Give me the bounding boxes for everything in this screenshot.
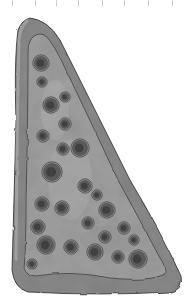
pepperoni bbox=[92, 190, 102, 200]
pepperoni bbox=[31, 220, 45, 234]
pepperoni bbox=[118, 222, 130, 234]
pizza-slice-illustration bbox=[0, 0, 193, 303]
pepperoni bbox=[43, 97, 59, 113]
pepperoni bbox=[71, 139, 89, 157]
pepperoni bbox=[129, 250, 147, 268]
pepperoni bbox=[27, 259, 37, 269]
pepperoni bbox=[37, 130, 49, 142]
pepperoni bbox=[33, 55, 49, 71]
pepperoni bbox=[129, 235, 139, 245]
pepperoni bbox=[55, 201, 69, 215]
pepperoni bbox=[57, 143, 69, 155]
pepperoni bbox=[64, 240, 78, 254]
pepperoni bbox=[37, 236, 55, 254]
pepperoni bbox=[59, 118, 71, 130]
pepperoni bbox=[60, 92, 70, 102]
pepperoni bbox=[99, 231, 111, 243]
pepperoni bbox=[35, 197, 49, 211]
pepperoni bbox=[99, 202, 115, 218]
pepperoni bbox=[87, 244, 103, 260]
pepperoni bbox=[78, 179, 92, 193]
pepperoni bbox=[112, 251, 124, 263]
pepperoni bbox=[42, 162, 62, 182]
pepperoni bbox=[82, 217, 94, 229]
pepperoni bbox=[37, 77, 47, 87]
